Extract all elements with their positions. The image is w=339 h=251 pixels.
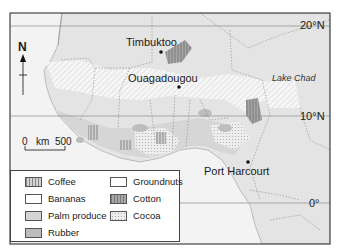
city-label-port-harcourt: Port Harcourt	[204, 166, 269, 177]
scale-start: 0	[22, 137, 28, 147]
rubber-swatch-icon	[25, 228, 42, 238]
city-dot-ouagadougou	[177, 85, 181, 89]
legend-item-coffee: Coffee	[25, 176, 76, 187]
rubber-region	[132, 124, 148, 132]
legend: Coffee Bananas Palm produce Rubber Groun…	[10, 170, 180, 242]
legend-item-cocoa: Cocoa	[110, 210, 160, 221]
coffee-region	[88, 125, 98, 140]
palm-produce-swatch-icon	[25, 211, 42, 221]
latitude-label-0: 0°	[309, 198, 320, 209]
coffee-swatch-icon	[25, 177, 42, 187]
cocoa-swatch-icon	[110, 211, 127, 221]
city-label-ouagadougou: Ouagadougou	[128, 73, 198, 84]
city-dot-timbuktoo	[159, 50, 163, 54]
city-label-timbuktoo: Timbuktoo	[126, 37, 177, 48]
legend-item-cotton: Cotton	[110, 193, 161, 204]
bananas-swatch-icon	[25, 194, 42, 204]
latitude-label-20n: 20°N	[300, 20, 325, 31]
north-label: N	[18, 41, 27, 53]
scale-unit: km	[36, 137, 49, 147]
legend-item-rubber: Rubber	[25, 227, 79, 238]
legend-item-palm-produce: Palm produce	[25, 210, 107, 221]
legend-item-groundnuts: Groundnuts	[110, 176, 183, 187]
cotton-swatch-icon	[110, 194, 127, 204]
groundnuts-swatch-icon	[110, 177, 127, 187]
latitude-label-10n: 10°N	[300, 111, 325, 122]
lake-label-chad: Lake Chad	[272, 74, 316, 83]
city-dot-port-harcourt	[246, 160, 250, 164]
scale-end: 500	[55, 137, 72, 147]
legend-item-bananas: Bananas	[25, 193, 86, 204]
